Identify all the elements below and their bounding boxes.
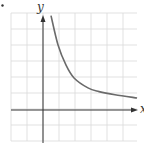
bullet-marker: [1, 4, 3, 6]
graph: y x: [0, 0, 144, 145]
x-axis-label: x: [140, 102, 144, 116]
y-axis-label: y: [36, 0, 44, 14]
function-curve: [51, 16, 137, 98]
